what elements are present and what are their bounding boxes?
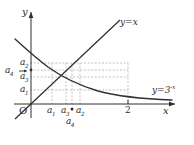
math-figure: y x O 2 y=x y=3-x a2 a4 a3 a1 a1 a3 a2 bbox=[0, 0, 194, 145]
y-label-a3: a3 bbox=[20, 72, 28, 83]
x-axis-label: x bbox=[163, 106, 169, 116]
identity-line-label: y=x bbox=[120, 18, 138, 27]
exponential-curve-label: y=3-x bbox=[152, 85, 175, 95]
y-label-a1: a1 bbox=[20, 85, 28, 96]
x-axis-arrow bbox=[169, 102, 175, 107]
y-label-a4: a4 bbox=[5, 66, 13, 77]
a4-yaxis-marker-dot bbox=[30, 69, 33, 72]
x-tick-label-2: 2 bbox=[125, 106, 131, 115]
y-label-a2: a2 bbox=[20, 58, 28, 69]
plot-canvas bbox=[0, 0, 194, 145]
y-axis-label: y bbox=[22, 7, 28, 17]
x-label-a1: a1 bbox=[47, 106, 55, 117]
origin-label: O bbox=[19, 106, 27, 116]
a4-axis-marker-dot bbox=[71, 108, 74, 111]
x-label-a4: a4 bbox=[66, 117, 74, 128]
exponential-curve bbox=[15, 39, 172, 100]
y-axis-arrow bbox=[29, 12, 34, 18]
x-label-a2: a2 bbox=[76, 106, 84, 117]
